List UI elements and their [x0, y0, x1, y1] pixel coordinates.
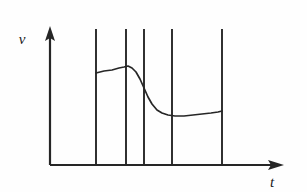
data-curve-group	[96, 66, 222, 116]
velocity-curve	[96, 66, 222, 116]
vertical-marker-lines	[96, 29, 222, 165]
x-axis-label: t	[270, 174, 275, 190]
axes-group	[45, 26, 284, 170]
plot-canvas: v t	[0, 0, 307, 192]
velocity-time-figure: v t	[0, 0, 307, 192]
y-axis-label: v	[19, 31, 26, 47]
